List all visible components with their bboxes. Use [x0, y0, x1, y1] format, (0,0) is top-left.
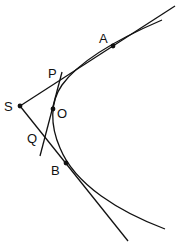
point-o: [51, 107, 56, 112]
label-a: A: [99, 31, 108, 46]
label-o: O: [57, 106, 67, 121]
point-a: [111, 44, 116, 49]
tangent-line-sa: [20, 6, 175, 106]
label-s: S: [4, 99, 13, 114]
parabola-curve: [53, 20, 165, 229]
parabola-diagram: S A P O Q B: [0, 0, 179, 246]
label-q: Q: [27, 131, 37, 146]
tangent-line-sb: [20, 106, 128, 241]
label-b: B: [51, 163, 60, 178]
point-b: [64, 161, 69, 166]
point-s: [18, 104, 23, 109]
label-p: P: [48, 66, 57, 81]
